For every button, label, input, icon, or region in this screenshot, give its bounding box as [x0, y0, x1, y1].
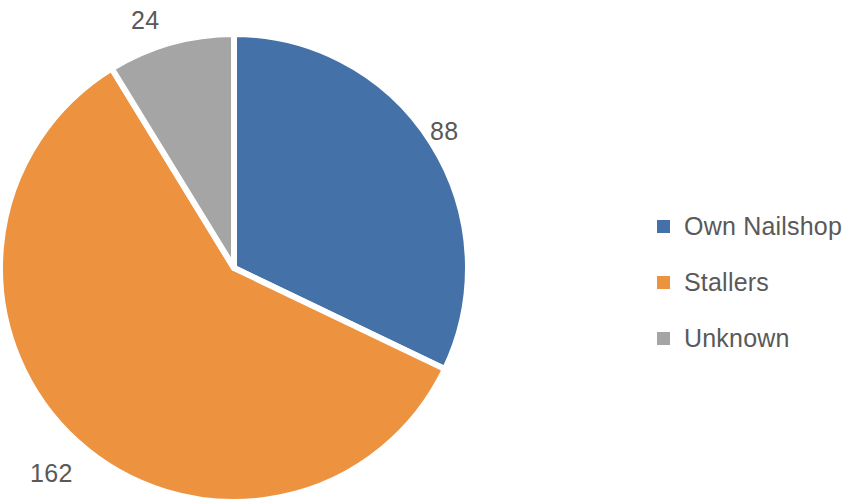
legend-label-stallers: Stallers [684, 270, 769, 295]
pie-slice-group [0, 34, 468, 502]
data-label-stallers: 162 [30, 461, 73, 486]
data-label-unknown: 24 [131, 8, 159, 33]
legend-item-stallers[interactable]: Stallers [657, 254, 866, 310]
pie-chart: 24 88 162 Own Nailshop Stallers Unknown [0, 0, 866, 504]
legend-label-own-nailshop: Own Nailshop [684, 214, 842, 239]
legend-label-unknown: Unknown [684, 326, 790, 351]
legend-item-own-nailshop[interactable]: Own Nailshop [657, 198, 866, 254]
chart-plot-area: 24 88 162 [0, 0, 640, 504]
data-label-own-nailshop: 88 [430, 119, 458, 144]
legend-swatch-icon-stallers [657, 276, 670, 289]
legend-item-unknown[interactable]: Unknown [657, 310, 866, 366]
legend-swatch-icon-unknown [657, 332, 670, 345]
legend-swatch-icon-own-nailshop [657, 220, 670, 233]
chart-legend: Own Nailshop Stallers Unknown [657, 198, 866, 366]
pie-graphic [0, 0, 640, 504]
